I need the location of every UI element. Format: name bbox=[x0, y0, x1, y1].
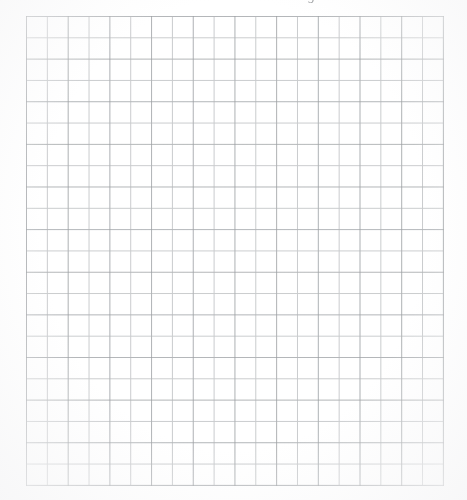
clipped-header-text: ng. 542 bbox=[297, 0, 371, 4]
graph-paper-grid bbox=[26, 16, 444, 486]
graph-paper-page: ng. 542 bbox=[0, 0, 467, 500]
clipped-header-strip: ng. 542 bbox=[0, 0, 467, 10]
